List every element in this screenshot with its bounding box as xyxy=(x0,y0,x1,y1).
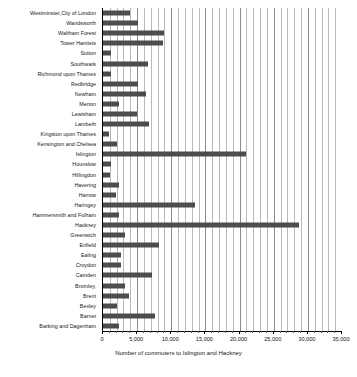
category-label: Wandsworth xyxy=(66,20,96,26)
bar xyxy=(103,81,138,86)
x-tick-major xyxy=(341,331,342,334)
bar xyxy=(103,303,117,308)
bar xyxy=(103,162,111,167)
category-label: Greenwich xyxy=(70,232,96,238)
x-tick-minor xyxy=(157,331,158,333)
bar-row xyxy=(103,230,342,240)
bar-row xyxy=(103,311,342,321)
category-label: Bromley, xyxy=(75,283,96,289)
category-label: Barnet xyxy=(80,313,96,319)
x-tick-label: 35,000 xyxy=(332,336,349,342)
bar xyxy=(103,283,125,288)
category-label: Barking and Dagenham xyxy=(39,323,96,329)
category-label: Tower Hamlets xyxy=(60,40,96,46)
bar xyxy=(103,11,130,16)
bar-row xyxy=(103,190,342,200)
category-axis-labels: Westminster,City of LondonWandsworthWalt… xyxy=(0,8,99,331)
category-label: Southwark xyxy=(71,61,96,67)
bar xyxy=(103,71,111,76)
x-tick-major xyxy=(273,331,274,334)
bar xyxy=(103,111,137,116)
x-tick-minor xyxy=(122,331,123,333)
x-tick-minor xyxy=(293,331,294,333)
category-label: Islington xyxy=(76,151,96,157)
category-label: Westminster,City of London xyxy=(30,10,96,16)
x-tick-major xyxy=(307,331,308,334)
bar xyxy=(103,101,119,106)
bar-row xyxy=(103,180,342,190)
x-tick-minor xyxy=(300,331,301,333)
x-tick-minor xyxy=(177,331,178,333)
x-tick-major xyxy=(102,331,103,334)
x-tick-label: 30,000 xyxy=(298,336,315,342)
category-label: Hillingdon xyxy=(72,172,96,178)
x-tick-label: 15,000 xyxy=(196,336,213,342)
category-label: Richmond upon Thames xyxy=(37,71,96,77)
x-tick-minor xyxy=(286,331,287,333)
x-tick-minor xyxy=(266,331,267,333)
category-label: Kingston upon Thames xyxy=(41,131,96,137)
x-axis-title: Number of commuters to Islington and Hac… xyxy=(0,350,357,356)
bar-row xyxy=(103,200,342,210)
x-tick-minor xyxy=(314,331,315,333)
x-tick-minor xyxy=(129,331,130,333)
x-tick-label: 5,000 xyxy=(129,336,143,342)
bar-row xyxy=(103,260,342,270)
category-label: Redbridge xyxy=(71,81,96,87)
bar-row xyxy=(103,129,342,139)
bar-row xyxy=(103,170,342,180)
x-tick-minor xyxy=(150,331,151,333)
bar xyxy=(103,192,116,197)
category-label: Ealing xyxy=(81,252,96,258)
x-axis-line xyxy=(102,331,341,332)
bar xyxy=(103,41,163,46)
category-label: Brent xyxy=(83,293,96,299)
bar-row xyxy=(103,119,342,129)
bar xyxy=(103,233,125,238)
x-tick-minor xyxy=(232,331,233,333)
x-tick-minor xyxy=(191,331,192,333)
bar-row xyxy=(103,89,342,99)
bar xyxy=(103,132,109,137)
bar xyxy=(103,91,146,96)
bar xyxy=(103,263,121,268)
x-tick-minor xyxy=(218,331,219,333)
bar-row xyxy=(103,270,342,280)
bars xyxy=(103,8,342,331)
bar xyxy=(103,122,149,127)
x-tick-major xyxy=(204,331,205,334)
x-tick-minor xyxy=(198,331,199,333)
category-label: Harrow xyxy=(79,192,96,198)
category-label: Kensington and Chelsea xyxy=(37,141,96,147)
x-tick-major xyxy=(170,331,171,334)
bar-row xyxy=(103,139,342,149)
bar-row xyxy=(103,240,342,250)
bar xyxy=(103,293,129,298)
x-tick-minor xyxy=(143,331,144,333)
x-tick-minor xyxy=(280,331,281,333)
bar xyxy=(103,243,159,248)
x-tick-minor xyxy=(245,331,246,333)
category-label: Hammersmith and Fulham xyxy=(32,212,96,218)
category-label: Lambeth xyxy=(75,121,96,127)
bar-row xyxy=(103,321,342,331)
bar-row xyxy=(103,281,342,291)
category-label: Havering xyxy=(74,182,96,188)
bar xyxy=(103,253,121,258)
bar xyxy=(103,223,299,228)
plot-area xyxy=(102,8,342,331)
category-label: Bexley xyxy=(80,303,96,309)
bar-row xyxy=(103,38,342,48)
category-label: Lewisham xyxy=(72,111,96,117)
bar-row xyxy=(103,109,342,119)
bar-row xyxy=(103,210,342,220)
x-tick-minor xyxy=(259,331,260,333)
category-label: Newham xyxy=(75,91,96,97)
bar xyxy=(103,142,117,147)
x-tick-minor xyxy=(184,331,185,333)
bar-row xyxy=(103,58,342,68)
bar xyxy=(103,172,110,177)
bar xyxy=(103,61,148,66)
bar-row xyxy=(103,48,342,58)
bar-row xyxy=(103,28,342,38)
